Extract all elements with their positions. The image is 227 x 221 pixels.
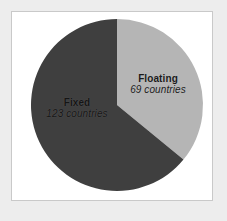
pie-slice-label-fixed-value: 123 countries — [37, 109, 117, 120]
pie-chart-figure: Floating 69 countries Fixed 123 countrie… — [0, 0, 227, 221]
pie-slice-label-floating-value: 69 countries — [122, 85, 194, 96]
pie-slice-label-floating: Floating 69 countries — [122, 74, 194, 96]
pie-plot-area: Floating 69 countries Fixed 123 countrie… — [0, 0, 227, 221]
pie-slice-label-fixed: Fixed 123 countries — [37, 98, 117, 120]
